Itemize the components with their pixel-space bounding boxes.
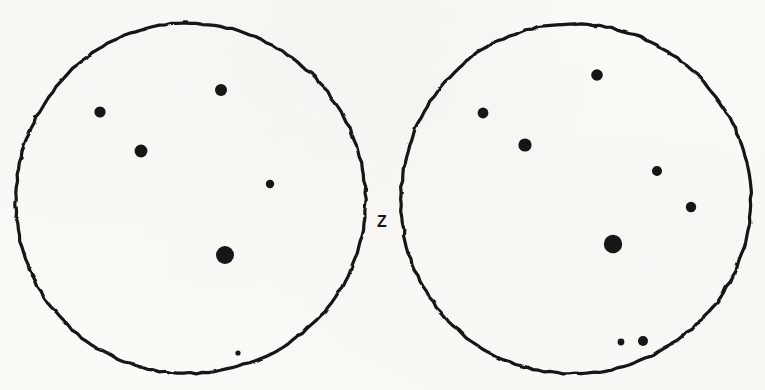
left-circle-outline	[16, 23, 366, 374]
zenith-axis-label: Z	[377, 214, 387, 230]
star-point-R5: R5 (small)	[686, 202, 696, 212]
panels-layer: L1 (medium)L2 (medium)L3 (medium)L4 (sma…	[16, 23, 752, 374]
star-point-L6: L6 (tiny)	[235, 350, 240, 355]
star-point-L5: L5 (large)	[216, 246, 234, 264]
star-point-L3: L3 (medium)	[135, 145, 148, 158]
left-circle: L1 (medium)L2 (medium)L3 (medium)L4 (sma…	[16, 23, 366, 374]
star-point-R8: R8 (small)	[638, 336, 648, 346]
star-point-R4: R4 (small)	[652, 166, 662, 176]
figure-canvas: L1 (medium)L2 (medium)L3 (medium)L4 (sma…	[0, 0, 765, 390]
star-point-R6: R6 (large)	[604, 235, 622, 253]
star-point-L4: L4 (small)	[266, 180, 274, 188]
star-point-R3: R3 (medium)	[518, 138, 531, 151]
star-point-L1: L1 (medium)	[215, 84, 227, 96]
star-chart-svg: L1 (medium)L2 (medium)L3 (medium)L4 (sma…	[0, 0, 765, 390]
star-point-R1: R1 (medium)	[591, 69, 603, 81]
star-point-L2: L2 (medium)	[94, 106, 105, 117]
star-point-R7: R7 (tiny)	[618, 339, 625, 346]
right-circle-outline	[401, 24, 752, 374]
star-point-R2: R2 (medium)	[478, 108, 489, 119]
right-circle: R1 (medium)R2 (medium)R3 (medium)R4 (sma…	[401, 24, 752, 374]
